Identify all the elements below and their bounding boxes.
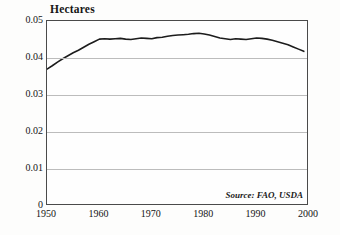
plot-area: Source: FAO, USDA bbox=[46, 20, 308, 205]
gridline bbox=[47, 95, 307, 96]
x-tick-label: 1960 bbox=[75, 209, 121, 219]
x-tick-label: 1980 bbox=[180, 209, 226, 219]
source-note: Source: FAO, USDA bbox=[226, 190, 303, 200]
gridline bbox=[47, 58, 307, 59]
data-line-series bbox=[47, 21, 308, 205]
y-tick-label: 0.04 bbox=[3, 52, 43, 62]
y-tick-label: 0.05 bbox=[3, 15, 43, 25]
x-tick-label: 1970 bbox=[128, 209, 174, 219]
series-polyline bbox=[47, 33, 304, 69]
y-tick-label: 0.01 bbox=[3, 163, 43, 173]
y-axis-labels: 00.010.020.030.040.05 bbox=[0, 0, 43, 235]
x-axis-labels: 195019601970198019902000 bbox=[0, 209, 340, 225]
x-tick-label: 2000 bbox=[285, 209, 331, 219]
y-tick-label: 0.03 bbox=[3, 89, 43, 99]
x-tick-label: 1990 bbox=[233, 209, 279, 219]
gridline bbox=[47, 132, 307, 133]
x-tick-label: 1950 bbox=[23, 209, 69, 219]
chart-figure: Hectares 00.010.020.030.040.05 Source: F… bbox=[0, 0, 340, 235]
gridline bbox=[47, 169, 307, 170]
y-tick-label: 0.02 bbox=[3, 126, 43, 136]
chart-title: Hectares bbox=[50, 3, 95, 15]
